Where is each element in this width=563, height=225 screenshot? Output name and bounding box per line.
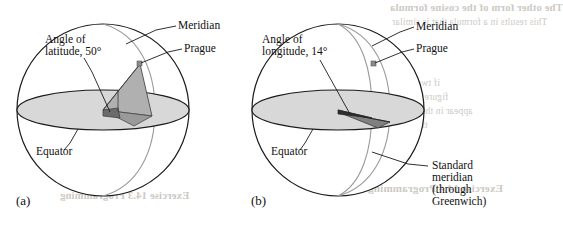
globe-a bbox=[17, 24, 189, 196]
label-standard-meridian-line1-b: Standard bbox=[432, 159, 473, 172]
label-equator-a: Equator bbox=[36, 145, 72, 158]
label-equator-b: Equator bbox=[271, 145, 307, 158]
label-angle-latitude-line1-a: Angle of bbox=[45, 33, 86, 46]
angle-marker-a bbox=[103, 108, 120, 118]
label-meridian-b: Meridian bbox=[416, 20, 458, 33]
label-standard-meridian-line3-b: (through bbox=[432, 183, 472, 196]
label-angle-longitude-line2-b: longitude, 14° bbox=[262, 45, 327, 58]
label-standard-meridian-line2-b: meridian bbox=[432, 171, 473, 184]
prague-dot-a bbox=[137, 61, 142, 66]
label-standard-meridian-line4-b: Greenwich) bbox=[432, 195, 486, 208]
prague-dot-b bbox=[371, 61, 376, 66]
label-angle-latitude-line2-a: latitude, 50° bbox=[45, 45, 101, 58]
panel-tag-a: (a) bbox=[16, 193, 30, 209]
label-prague-b: Prague bbox=[416, 42, 448, 55]
label-prague-a: Prague bbox=[184, 42, 216, 55]
label-meridian-a: Meridian bbox=[178, 19, 220, 32]
label-angle-longitude-line1-b: Angle of bbox=[262, 33, 303, 46]
panel-tag-b: (b) bbox=[251, 193, 266, 209]
